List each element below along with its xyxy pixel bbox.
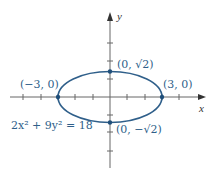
point-bottom-covertex (108, 120, 112, 124)
point-right-vertex (160, 95, 164, 99)
y-axis-arrow-icon (107, 12, 113, 21)
x-axis-label: x (198, 102, 204, 114)
label-bottom-covertex: (0, −√2) (116, 123, 162, 136)
label-right-vertex: (3, 0) (163, 78, 193, 91)
x-axis-arrow-icon (198, 94, 206, 100)
point-top-covertex (108, 69, 112, 73)
y-axis-label: y (116, 10, 122, 22)
ellipse-diagram: y x (0, √2) (−3, 0) (3, 0) (0, −√2) 2x² … (0, 0, 212, 177)
label-top-covertex: (0, √2) (117, 58, 154, 71)
point-left-vertex (56, 95, 60, 99)
equation-label: 2x² + 9y² = 18 (11, 119, 93, 132)
label-left-vertex: (−3, 0) (20, 78, 59, 91)
